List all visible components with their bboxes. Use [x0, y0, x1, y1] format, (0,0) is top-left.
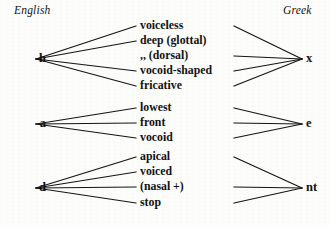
feature-label: deep (glottal): [140, 34, 207, 47]
feature-label: vocoid: [140, 131, 173, 144]
link-left: [36, 187, 136, 188]
link-right: [234, 124, 302, 138]
feature-label: (nasal +): [140, 180, 184, 193]
link-left: [36, 108, 136, 124]
link-left: [36, 123, 136, 124]
source-phoneme-a: a: [0, 116, 46, 131]
link-left: [36, 172, 136, 188]
link-left: [36, 157, 136, 188]
link-right: [234, 59, 302, 86]
link-right: [234, 157, 302, 188]
link-right: [234, 108, 302, 124]
feature-label: voiced: [140, 165, 172, 178]
link-right: [234, 188, 302, 203]
link-left: [36, 41, 136, 59]
source-phoneme-d: d: [0, 180, 46, 195]
link-right: [234, 26, 302, 59]
link-right: [234, 187, 302, 188]
target-phoneme-nt: nt: [306, 180, 330, 195]
link-left: [36, 59, 136, 86]
feature-label: fricative: [140, 79, 182, 92]
feature-label: front: [140, 116, 165, 129]
link-right: [234, 56, 302, 59]
target-phoneme-x: x: [306, 51, 330, 66]
feature-label: voiceless: [140, 19, 183, 32]
source-phoneme-h: h: [0, 51, 46, 66]
feature-label: lowest: [140, 101, 171, 114]
target-phoneme-e: e: [306, 116, 330, 131]
feature-label: stop: [140, 196, 161, 209]
feature-label: apical: [140, 150, 170, 163]
link-right: [234, 59, 302, 71]
feature-label: vocoid-shaped: [140, 64, 212, 77]
link-right: [234, 123, 302, 124]
link-left: [36, 124, 136, 138]
link-left: [36, 59, 136, 71]
diagram-canvas: English Greek hxaednt voicelessdeep (glo…: [0, 0, 330, 227]
feature-label: ,, (dorsal): [140, 49, 188, 62]
link-left: [36, 188, 136, 203]
link-left: [36, 26, 136, 59]
